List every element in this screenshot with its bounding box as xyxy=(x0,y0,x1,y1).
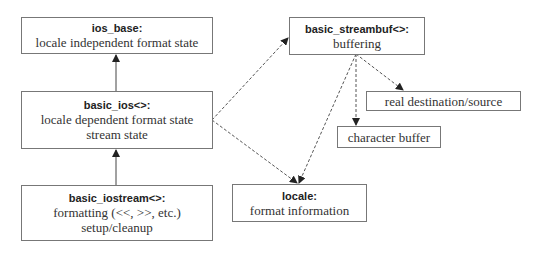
node-title: locale: xyxy=(282,189,317,203)
edge-streambuf-to-real-destination xyxy=(356,54,403,90)
node-line: real destination/source xyxy=(385,94,502,109)
node-line: locale independent format state xyxy=(36,35,199,50)
node-basic-streambuf: basic_streambuf<>: buffering xyxy=(289,17,425,55)
node-line: stream state xyxy=(86,127,148,142)
node-real-destination: real destination/source xyxy=(366,91,521,111)
node-line: format information xyxy=(250,203,349,218)
edge-basic-ios-to-locale xyxy=(212,120,297,183)
node-title: basic_ios<>: xyxy=(84,98,151,112)
node-line: buffering xyxy=(333,36,381,51)
node-basic-ios: basic_ios<>: locale dependent format sta… xyxy=(21,91,213,149)
node-line: locale dependent format state xyxy=(41,112,194,127)
edge-streambuf-to-locale xyxy=(299,54,356,183)
node-line: character buffer xyxy=(348,130,430,145)
node-title: basic_iostream<>: xyxy=(69,191,166,205)
edge-basic-ios-to-streambuf xyxy=(212,38,288,120)
node-title: ios_base: xyxy=(92,21,143,35)
node-line: setup/cleanup xyxy=(81,220,152,235)
node-line: formatting (<<, >>, etc.) xyxy=(53,205,181,220)
node-character-buffer: character buffer xyxy=(337,126,441,148)
node-title: basic_streambuf<>: xyxy=(305,22,409,36)
node-locale: locale: format information xyxy=(232,184,367,222)
node-ios-base: ios_base: locale independent format stat… xyxy=(21,17,213,54)
diagram-canvas: ios_base: locale independent format stat… xyxy=(0,0,538,253)
node-basic-iostream: basic_iostream<>: formatting (<<, >>, et… xyxy=(21,185,213,241)
